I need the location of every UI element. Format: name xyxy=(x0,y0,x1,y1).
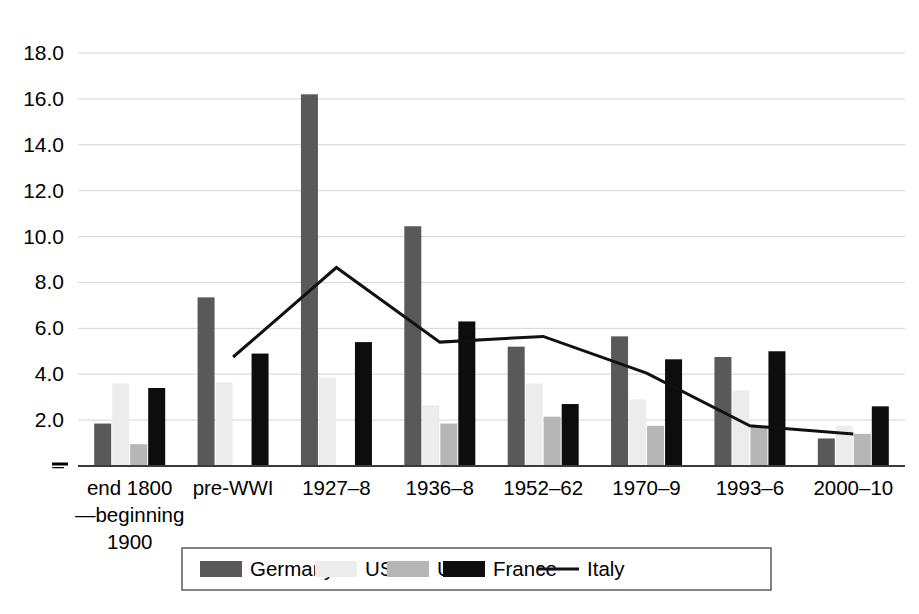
bar-usa xyxy=(112,383,129,466)
bar-uk xyxy=(647,426,664,466)
bar-usa xyxy=(629,399,646,466)
bar-uk xyxy=(854,434,871,466)
y-axis-labels-group: –2.04.06.08.010.012.014.016.018.0 xyxy=(23,41,64,477)
y-axis-tick-label: 6.0 xyxy=(35,316,64,339)
y-axis-tick-label: 18.0 xyxy=(23,41,64,64)
chart-canvas: –2.04.06.08.010.012.014.016.018.0 end 18… xyxy=(0,0,919,614)
x-axis-category-label: 1900 xyxy=(107,530,153,553)
bar-germany xyxy=(94,424,111,466)
bar-france xyxy=(252,354,269,466)
bar-uk xyxy=(440,424,457,466)
bar-uk xyxy=(544,417,561,466)
legend-swatch-germany xyxy=(200,561,242,577)
x-axis-category-label: pre-WWI xyxy=(193,476,274,499)
y-axis-tick-label: 2.0 xyxy=(35,408,64,431)
bar-uk xyxy=(750,426,767,466)
bar-france xyxy=(665,359,682,466)
legend-swatch-usa xyxy=(315,561,357,577)
legend: GermanyUSAUKFranceItaly xyxy=(182,548,771,590)
y-axis-tick-label: 10.0 xyxy=(23,225,64,248)
x-axis-category-label: 2000–10 xyxy=(813,476,893,499)
bar-france xyxy=(355,342,372,466)
legend-swatch-uk xyxy=(387,561,429,577)
x-axis-labels-group: end 1800—beginning1900pre-WWI1927–81936–… xyxy=(75,476,893,553)
x-axis-category-label: 1936–8 xyxy=(406,476,474,499)
bar-usa xyxy=(319,378,336,466)
bar-germany xyxy=(818,438,835,466)
bar-germany xyxy=(404,226,421,466)
bar-usa xyxy=(216,382,233,466)
x-axis-category-label: 1993–6 xyxy=(716,476,784,499)
x-axis-category-label: 1952–62 xyxy=(503,476,583,499)
x-axis-category-label: end 1800 xyxy=(87,476,173,499)
chart-container: –2.04.06.08.010.012.014.016.018.0 end 18… xyxy=(0,0,919,614)
x-axis-category-label: 1970–9 xyxy=(612,476,680,499)
bar-france xyxy=(872,406,889,466)
bar-france xyxy=(458,321,475,466)
bar-france xyxy=(768,351,785,466)
y-axis-tick-label: 4.0 xyxy=(35,362,64,385)
bar-germany xyxy=(301,94,318,466)
y-axis-tick-label: 16.0 xyxy=(23,87,64,110)
bar-france xyxy=(562,404,579,466)
x-axis-category-label: —beginning xyxy=(75,503,184,526)
bar-germany xyxy=(198,297,215,466)
bar-uk xyxy=(130,444,147,466)
bar-germany xyxy=(611,336,628,466)
bar-france xyxy=(148,388,165,466)
y-axis-tick-label: 8.0 xyxy=(35,270,64,293)
bars-group xyxy=(94,94,889,466)
bar-usa xyxy=(732,390,749,466)
bar-usa xyxy=(526,383,543,466)
bar-usa xyxy=(422,405,439,466)
x-axis-category-label: 1927–8 xyxy=(302,476,370,499)
bar-germany xyxy=(508,347,525,466)
y-axis-tick-label: 12.0 xyxy=(23,179,64,202)
legend-label-italy: Italy xyxy=(587,557,625,580)
legend-swatch-france xyxy=(443,561,485,577)
y-axis-tick-label: 14.0 xyxy=(23,133,64,156)
